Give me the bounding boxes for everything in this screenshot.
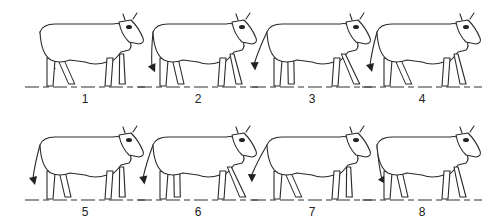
cow-drawing [252,10,372,90]
cow-horns [123,13,137,20]
cow-drawing [362,10,482,90]
cow-drawing [25,10,145,90]
cow-front-legs [442,54,466,86]
gait-phase-panel-6: 6 [138,123,258,218]
cow-front-legs [218,167,246,199]
gait-phase-number: 3 [252,92,372,106]
gait-phase-panel-4: 4 [362,10,482,105]
cow-horns [460,13,474,20]
gait-phase-number: 4 [362,92,482,106]
gait-phase-panel-2: 2 [138,10,258,105]
cow-front-legs [105,167,132,199]
cow-horns [236,126,250,133]
cow-body [40,24,131,65]
cow-body [40,137,131,178]
cow-drawing [25,123,145,203]
cow-tail [139,144,153,185]
cow-tail [366,32,377,72]
cow-drawing [362,123,482,203]
cow-front-legs [218,54,242,86]
gait-phase-number: 2 [138,92,258,106]
gait-phase-number: 8 [362,205,482,219]
gait-phase-panel-7: 7 [252,123,372,218]
cow-drawing [252,123,372,203]
cow-gait-figure: 1 [0,0,499,219]
cow-drawing [138,123,258,203]
cow-horns [236,13,250,20]
gait-phase-panel-8: 8 [362,123,482,218]
gait-phase-panel-3: 3 [252,10,372,105]
cow-horns [123,126,137,133]
cow-tail [249,30,267,71]
cow-drawing [138,10,258,90]
cow-body [267,137,358,178]
cow-horns [460,126,474,133]
gait-phase-panel-1: 1 [25,10,145,105]
cow-front-legs [332,54,360,86]
gait-phase-number: 5 [25,205,145,219]
gait-phase-number: 1 [25,92,145,106]
gait-phase-panel-5: 5 [25,123,145,218]
cow-front-legs [442,167,466,199]
cow-front-legs [105,54,132,86]
gait-phase-number: 7 [252,205,372,219]
gait-phase-number: 6 [138,205,258,219]
cow-tail [29,145,40,185]
cow-front-legs [332,167,359,199]
